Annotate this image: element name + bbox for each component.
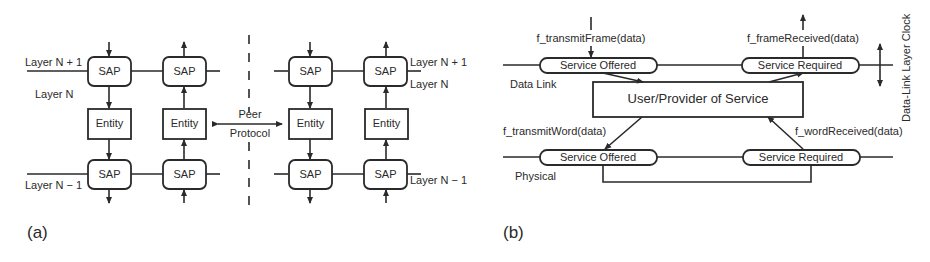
sap-label: SAP	[98, 168, 120, 180]
word-received-label: f_wordReceived(data)	[795, 125, 903, 137]
service-offered-top-label: Service Offered	[560, 59, 636, 71]
transmit-word-arrow	[605, 117, 642, 149]
data-link-label: Data Link	[510, 78, 557, 90]
offered-to-provider-arrow	[603, 73, 643, 82]
protocol-label: Protocol	[230, 127, 270, 139]
panel-b: f_transmitFrame(data) Service Offered f_…	[503, 13, 912, 242]
frame-received-label: f_frameReceived(data)	[747, 32, 859, 44]
transmit-frame-label: f_transmitFrame(data)	[537, 32, 646, 44]
physical-label: Physical	[515, 170, 556, 182]
sap-label: SAP	[374, 65, 396, 77]
sap-label: SAP	[299, 65, 321, 77]
layer-n-plus-1-label: Layer N + 1	[25, 56, 82, 68]
entity-label: Entity	[297, 117, 325, 129]
provider-to-required-arrow	[769, 73, 803, 82]
service-offered-bottom-label: Service Offered	[560, 151, 636, 163]
sap-label: SAP	[98, 65, 120, 77]
layer-n-label-right: Layer N	[410, 78, 449, 90]
layer-n-minus-1-label: Layer N − 1	[25, 179, 82, 191]
panel-a: Layer N + 1 Layer N Layer N − 1 SAP Enti…	[25, 35, 467, 242]
protocol-diagram: Layer N + 1 Layer N Layer N − 1 SAP Enti…	[0, 0, 930, 262]
transmit-word-label: f_transmitWord(data)	[503, 125, 606, 137]
peer-label: Peer	[238, 108, 262, 120]
panel-b-label: (b)	[503, 223, 524, 242]
entity-label: Entity	[373, 117, 401, 129]
entity-label: Entity	[171, 117, 199, 129]
panel-a-label: (a)	[27, 223, 48, 242]
layer-n-minus-1-label-right: Layer N − 1	[410, 174, 467, 186]
service-required-top-label: Service Required	[758, 59, 842, 71]
sap-label: SAP	[173, 168, 195, 180]
sap-label: SAP	[299, 168, 321, 180]
layer-n-plus-1-label-right: Layer N + 1	[410, 56, 467, 68]
clock-label: Data-Link Layer Clock	[900, 13, 912, 122]
sap-label: SAP	[173, 65, 195, 77]
layer-n-label: Layer N	[35, 88, 74, 100]
entity-label: Entity	[96, 117, 124, 129]
user-provider-label: User/Provider of Service	[628, 91, 769, 106]
service-required-bottom-label: Service Required	[759, 151, 843, 163]
sap-label: SAP	[374, 168, 396, 180]
physical-loop	[603, 165, 811, 182]
